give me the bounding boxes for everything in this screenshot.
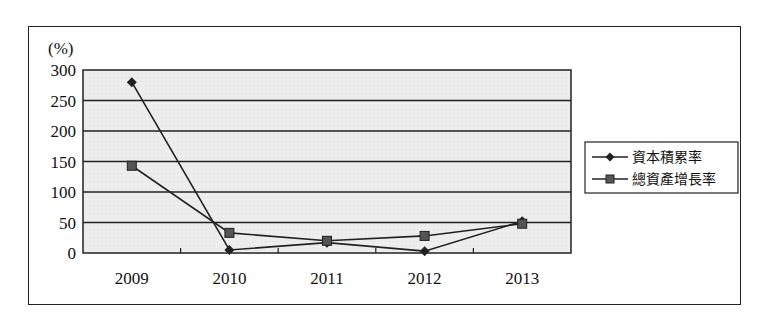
square-marker — [420, 231, 429, 240]
x-tick-label: 2010 — [212, 269, 246, 288]
x-tick-label: 2012 — [408, 269, 442, 288]
square-marker — [225, 228, 234, 237]
y-axis-ticks: 050100150200250300 — [51, 61, 77, 263]
y-tick-label: 0 — [68, 244, 77, 263]
square-marker — [127, 161, 136, 170]
legend-label: 資本積累率 — [632, 149, 702, 165]
y-tick-label: 250 — [51, 92, 77, 111]
legend-label: 總資產增長率 — [632, 171, 716, 187]
y-tick-label: 300 — [51, 61, 77, 80]
line-chart: 050100150200250300 20092010201120122013 … — [0, 0, 767, 330]
y-tick-label: 50 — [59, 214, 76, 233]
x-tick-label: 2013 — [505, 269, 539, 288]
x-tick-label: 2011 — [310, 269, 343, 288]
square-marker-icon — [606, 175, 614, 183]
legend: 資本積累率 總資產增長率 — [585, 142, 738, 193]
y-tick-label: 100 — [51, 183, 77, 202]
square-marker — [518, 219, 527, 228]
y-tick-label: 150 — [51, 153, 77, 172]
x-axis-ticks: 20092010201120122013 — [115, 248, 539, 288]
y-tick-label: 200 — [51, 122, 77, 141]
x-tick-label: 2009 — [115, 269, 149, 288]
y-axis-unit-label: (%) — [48, 39, 73, 58]
square-marker — [323, 236, 332, 245]
